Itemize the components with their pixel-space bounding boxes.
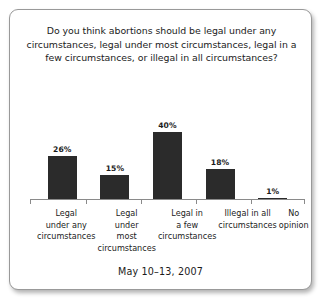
bar-value-label: 18% — [211, 158, 229, 167]
bar-rect — [206, 169, 235, 200]
category-label-line: Legal in — [158, 208, 216, 220]
axis-tick — [141, 200, 142, 204]
category-label-line: circumstances — [97, 243, 155, 255]
x-axis-ticks — [30, 200, 305, 204]
axis-tick — [251, 200, 252, 204]
bar-rect — [48, 156, 77, 200]
category-label-line: Legal — [97, 208, 155, 220]
bar-slot: 18% — [194, 98, 247, 200]
category-label: Illegal in all circumstances — [217, 208, 277, 231]
bar-slot: 26% — [36, 98, 89, 200]
category-label: Legal under most circumstances — [96, 208, 156, 254]
category-label-line: most — [97, 231, 155, 243]
category-label: Legal in a few circumstances — [157, 208, 217, 243]
axis-tick — [196, 200, 197, 204]
bar-value-label: 1% — [266, 187, 279, 196]
category-label-line: a few — [158, 220, 216, 232]
poll-chart-card: Do you think abortions should be legal u… — [9, 9, 312, 290]
category-label-line: Illegal in all — [218, 208, 276, 220]
bar-value-label: 40% — [158, 121, 176, 130]
bar-value-label: 26% — [53, 145, 71, 154]
category-label-line: No opinion — [279, 208, 309, 231]
bar-rect — [100, 175, 129, 201]
category-label-line: circumstances — [218, 220, 276, 232]
survey-date-footer: May 10–13, 2007 — [10, 266, 311, 277]
category-label-line: under — [97, 220, 155, 232]
bar-rect — [153, 132, 182, 200]
bar-slot: 40% — [141, 98, 194, 200]
bar-value-label: 15% — [106, 164, 124, 173]
axis-tick — [304, 200, 305, 204]
axis-tick — [86, 200, 87, 204]
x-axis-category-labels: Legal under any circumstances Legal unde… — [36, 208, 297, 254]
category-label-line: under any — [37, 220, 95, 232]
category-label: No opinion — [278, 208, 310, 231]
axis-tick — [30, 200, 31, 204]
bar-slot: 1% — [246, 98, 299, 200]
category-label-line: circumstances — [158, 231, 216, 243]
bar-series: 26% 15% 40% 18% 1% — [36, 98, 299, 200]
category-label-line: Legal — [37, 208, 95, 220]
chart-question-title: Do you think abortions should be legal u… — [20, 24, 303, 65]
bar-slot: 15% — [89, 98, 142, 200]
category-label: Legal under any circumstances — [36, 208, 96, 243]
category-label-line: circumstances — [37, 231, 95, 243]
bar-chart-plot-area: 26% 15% 40% 18% 1% — [10, 98, 312, 206]
